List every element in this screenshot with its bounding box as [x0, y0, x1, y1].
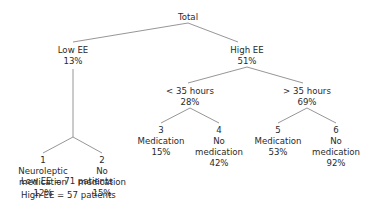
leaf-4-line-2: medication [195, 147, 243, 157]
leaf-3: 3 Medication 15% [138, 125, 185, 157]
node-lt35-label: < 35 hours [166, 86, 214, 96]
leaf-2-number: 2 [99, 155, 104, 165]
leaf-5-value: 53% [268, 147, 287, 157]
edge-low-ee-leaf2 [73, 137, 102, 153]
node-gt35: > 35 hours 69% [283, 86, 331, 107]
node-high-ee: High EE 51% [230, 45, 263, 66]
leaf-6-value: 92% [326, 158, 345, 168]
leaf-6-number: 6 [333, 125, 338, 135]
leaf-3-value: 15% [151, 147, 170, 157]
node-gt35-value: 69% [297, 97, 316, 107]
leaf-5: 5 Medication 53% [255, 125, 302, 157]
edge-total-high-ee [188, 23, 238, 42]
leaf-4-line-1: No [213, 136, 225, 146]
legend-high-ee: High EE = 57 patients [21, 190, 116, 200]
tree-diagram: Total Low EE 13% High EE 51% < 35 hours … [0, 0, 376, 204]
edge-lt35-leaf3 [161, 108, 190, 123]
edge-gt35-leaf5 [278, 108, 307, 123]
leaf-1-line-1: Neuroleptic [18, 166, 68, 176]
node-lt35-value: 28% [180, 97, 199, 107]
edge-high-ee-gt35 [247, 67, 303, 83]
node-total: Total [177, 12, 198, 22]
edge-gt35-leaf6 [307, 108, 336, 123]
leaf-4-value: 42% [209, 158, 228, 168]
node-low-ee-label: Low EE [58, 45, 89, 55]
leaf-3-number: 3 [158, 125, 163, 135]
leaf-1-number: 1 [40, 155, 45, 165]
leaf-4-number: 4 [216, 125, 221, 135]
leaf-6-line-2: medication [312, 147, 360, 157]
edge-high-ee-lt35 [188, 67, 247, 83]
leaf-6: 6 No medication 92% [312, 125, 360, 168]
node-low-ee: Low EE 13% [58, 45, 89, 66]
legend-low-ee: Low EE = 71 patients [21, 176, 113, 186]
edge-total-low-ee [73, 23, 188, 42]
leaf-5-line-1: Medication [255, 136, 302, 146]
edge-lt35-leaf4 [190, 108, 219, 123]
node-low-ee-value: 13% [63, 56, 82, 66]
edge-low-ee-leaf1 [43, 137, 73, 153]
node-high-ee-value: 51% [237, 56, 256, 66]
node-lt35: < 35 hours 28% [166, 86, 214, 107]
leaf-5-number: 5 [275, 125, 280, 135]
leaf-3-line-1: Medication [138, 136, 185, 146]
node-high-ee-label: High EE [230, 45, 263, 55]
leaf-4: 4 No medication 42% [195, 125, 243, 168]
leaf-6-line-1: No [330, 136, 342, 146]
leaf-2-line-1: No [96, 166, 108, 176]
node-gt35-label: > 35 hours [283, 86, 331, 96]
